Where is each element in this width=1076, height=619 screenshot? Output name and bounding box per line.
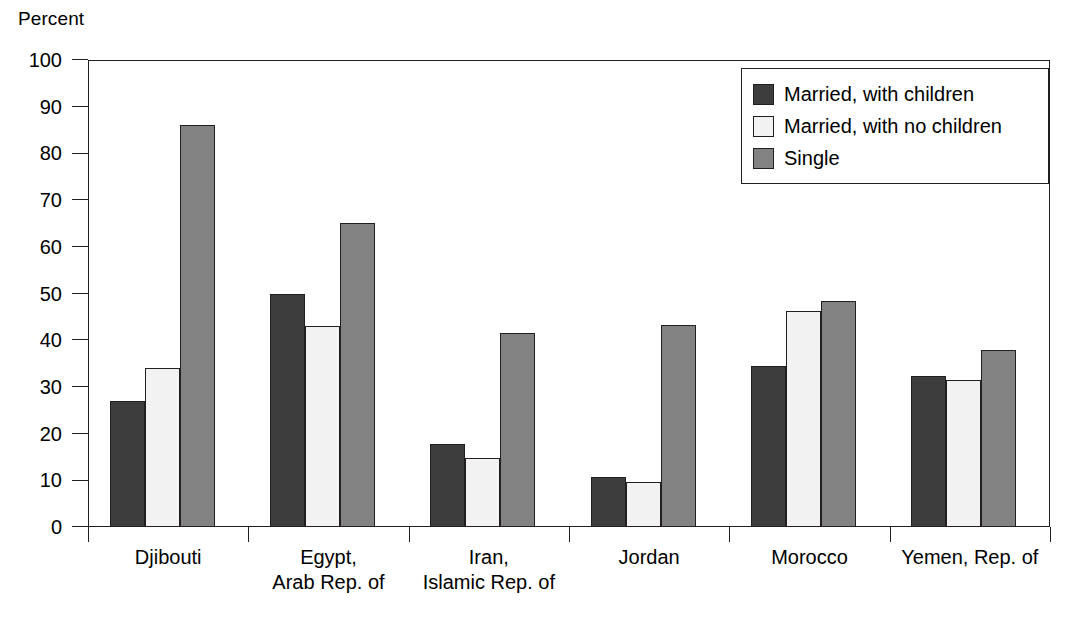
bar [180, 125, 215, 527]
legend-item: Married, with no children [753, 110, 1038, 142]
bar [591, 477, 626, 527]
x-axis-category-label: Egypt, Arab Rep. of [248, 545, 408, 595]
bar [946, 380, 981, 527]
legend-item-label: Married, with children [784, 84, 974, 105]
chart-legend: Married, with childrenMarried, with no c… [741, 68, 1049, 184]
bar [145, 368, 180, 527]
x-axis-category-label: Jordan [569, 545, 729, 570]
bar [911, 376, 946, 527]
x-axis-category-label: Djibouti [88, 545, 248, 570]
bar-chart: Percent 0102030405060708090100 DjiboutiE… [0, 0, 1076, 619]
bar [751, 366, 786, 527]
bar [661, 325, 696, 527]
x-axis-category-label: Morocco [729, 545, 889, 570]
legend-item: Married, with children [753, 78, 1038, 110]
legend-item: Single [753, 142, 1038, 174]
x-axis-category-label: Iran, Islamic Rep. of [409, 545, 569, 595]
bar [465, 458, 500, 527]
bar [270, 294, 305, 527]
bar [626, 482, 661, 527]
legend-swatch-icon [753, 148, 774, 169]
bar [305, 326, 340, 527]
bar [786, 311, 821, 527]
bar [500, 333, 535, 527]
legend-item-label: Married, with no children [784, 116, 1002, 137]
bar [110, 401, 145, 527]
bar [430, 444, 465, 527]
bar [981, 350, 1016, 527]
legend-swatch-icon [753, 84, 774, 105]
bar [821, 301, 856, 527]
bar [340, 223, 375, 527]
legend-swatch-icon [753, 116, 774, 137]
x-axis-category-label: Yemen, Rep. of [890, 545, 1050, 570]
legend-item-label: Single [784, 148, 840, 169]
